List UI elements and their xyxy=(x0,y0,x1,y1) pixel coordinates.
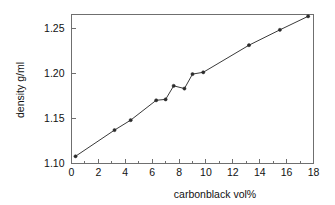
x-tick-label: 0 xyxy=(69,166,75,178)
y-tick-label: 1.15 xyxy=(44,112,65,124)
x-tick-label: 8 xyxy=(176,166,182,178)
y-axis-tick-labels: 1.101.151.201.25 xyxy=(44,22,65,169)
x-tick-label: 18 xyxy=(308,166,320,178)
data-point xyxy=(172,84,175,87)
x-axis-ticks xyxy=(72,159,314,164)
series-line xyxy=(76,16,309,156)
data-point xyxy=(247,44,250,47)
data-point xyxy=(191,73,194,76)
data-point xyxy=(307,15,310,18)
data-point xyxy=(183,87,186,90)
x-tick-label: 6 xyxy=(149,166,155,178)
x-tick-label: 4 xyxy=(122,166,128,178)
data-point xyxy=(164,98,167,101)
data-point xyxy=(155,99,158,102)
y-axis-title: density g/ml xyxy=(14,62,26,118)
y-tick-label: 1.10 xyxy=(44,157,65,169)
x-tick-label: 10 xyxy=(200,166,212,178)
x-tick-label: 12 xyxy=(227,166,239,178)
plot-frame xyxy=(72,15,314,164)
data-point xyxy=(129,119,132,122)
data-point xyxy=(74,155,77,158)
data-point xyxy=(202,71,205,74)
chart-figure: 024681012141618 1.101.151.201.25 carbonb… xyxy=(0,0,335,205)
x-tick-label: 14 xyxy=(254,166,266,178)
x-axis-tick-labels: 024681012141618 xyxy=(69,166,320,178)
y-tick-label: 1.20 xyxy=(44,67,65,79)
plot-border xyxy=(72,15,314,164)
data-point xyxy=(113,128,116,131)
density-vs-carbonblack-line-chart: 024681012141618 1.101.151.201.25 carbonb… xyxy=(0,0,335,205)
x-tick-label: 16 xyxy=(281,166,293,178)
data-point xyxy=(278,28,281,31)
y-tick-label: 1.25 xyxy=(44,22,65,34)
x-tick-label: 2 xyxy=(95,166,101,178)
data-series xyxy=(74,15,310,158)
x-axis-title: carbonblack vol% xyxy=(174,188,256,200)
y-axis-ticks xyxy=(72,28,77,163)
